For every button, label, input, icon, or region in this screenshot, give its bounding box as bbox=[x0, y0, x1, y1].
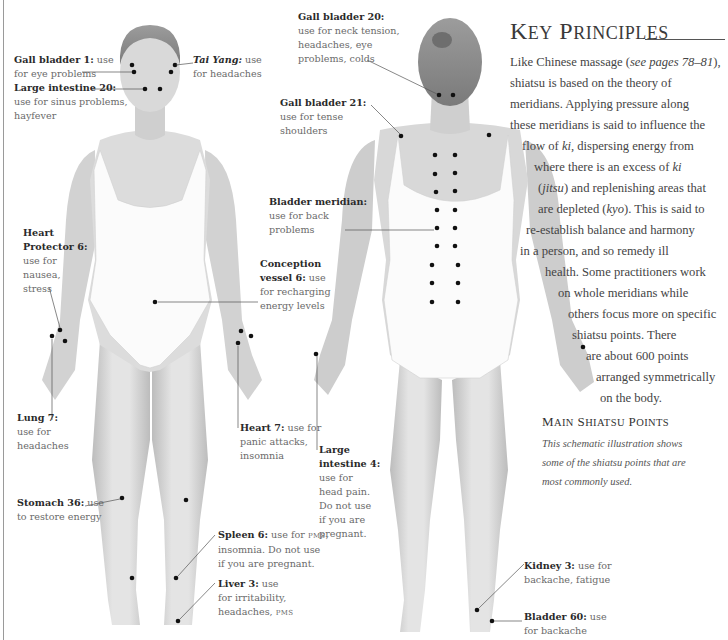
point-label-stomach-36: Stomach 36: useto restore energy bbox=[17, 496, 104, 524]
body-line: others focus more on specific bbox=[568, 304, 716, 325]
body-line: on whole meridians while bbox=[558, 283, 688, 304]
point-label-large-intestine-4: Largeintestine 4:use forhead pain.Do not… bbox=[319, 443, 380, 541]
point-label-tai-yang: Tai Yang: usefor headaches bbox=[193, 53, 262, 81]
body-line: on the body. bbox=[600, 388, 662, 409]
point-label-bladder-60: Bladder 60: usefor backache bbox=[524, 610, 607, 638]
point-label-bladder-meridian: Bladder meridian:use for backproblems bbox=[269, 195, 367, 237]
body-line: shiatsu is based on the theory of bbox=[510, 73, 672, 94]
body-line: where there is an excess of ki bbox=[534, 157, 682, 178]
body-line: meridians. Applying pressure along bbox=[510, 94, 689, 115]
section-title: MAIN SHIATSU POINTS bbox=[542, 414, 669, 430]
point-label-liver-3: Liver 3: usefor irritability,headaches, … bbox=[218, 577, 293, 620]
title-rest-rinciples: RINCIPLES bbox=[573, 23, 669, 43]
point-label-heart-7: Heart 7: use forpanic attacks,insomnia bbox=[240, 421, 321, 463]
title-rest-ey: EY bbox=[528, 23, 553, 43]
title-initial-p: P bbox=[559, 18, 573, 44]
title-initial-k: K bbox=[510, 18, 528, 44]
point-label-lung-7: Lung 7:use forheadaches bbox=[17, 411, 69, 453]
title-rule bbox=[645, 39, 725, 40]
body-line: are depleted (kyo). This is said to bbox=[538, 199, 705, 220]
body-line: these meridians is said to influence the bbox=[510, 115, 705, 136]
page-title: KEY PRINCIPLES bbox=[510, 18, 669, 45]
point-label-gall-bladder-1: Gall bladder 1: usefor eye problems bbox=[14, 53, 114, 81]
point-label-gall-bladder-20: Gall bladder 20:use for neck tension,hea… bbox=[298, 10, 400, 66]
body-line: re-establish balance and harmony bbox=[526, 220, 695, 241]
body-line: in a person, and so remedy ill bbox=[520, 241, 669, 262]
body-line: are about 600 points bbox=[586, 346, 688, 367]
point-label-large-intestine-20: Large intestine 20:use for sinus problem… bbox=[14, 81, 128, 123]
figure-caption: This schematic illustration showssome of… bbox=[542, 434, 686, 491]
body-line: flow of ki, dispersing energy from bbox=[522, 136, 694, 157]
body-line: health. Some practitioners work bbox=[545, 262, 706, 283]
body-line: Like Chinese massage (see pages 78–81), bbox=[510, 52, 721, 73]
point-label-conception-vessel-6: Conceptionvessel 6: usefor rechargingene… bbox=[260, 257, 331, 313]
body-line: shiatsu points. There bbox=[572, 325, 676, 346]
point-label-heart-protector-6: HeartProtector 6:use fornausea,stress bbox=[23, 226, 88, 296]
point-label-gall-bladder-21: Gall bladder 21:use for tenseshoulders bbox=[280, 96, 366, 138]
point-label-kidney-3: Kidney 3: use forbackache, fatigue bbox=[524, 559, 612, 587]
point-label-spleen-6: Spleen 6: use for PMS,insomnia. Do not u… bbox=[218, 528, 329, 571]
body-line: (jitsu) and replenishing areas that bbox=[538, 178, 706, 199]
body-line: arranged symmetrically bbox=[596, 367, 715, 388]
